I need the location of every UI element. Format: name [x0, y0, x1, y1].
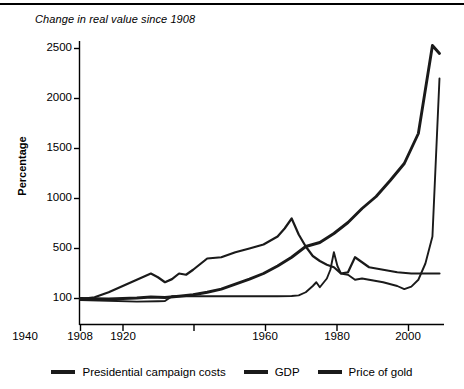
legend-item-gdp[interactable]: GDP — [244, 366, 300, 378]
legend-label: Presidential campaign costs — [82, 366, 225, 378]
plot-area — [0, 0, 464, 389]
legend-item-campaign-costs[interactable]: Presidential campaign costs — [51, 366, 225, 378]
legend-line-swatch-icon — [318, 370, 342, 374]
legend-label: GDP — [275, 366, 300, 378]
data-series-layer — [81, 46, 440, 302]
legend-item-price-of-gold[interactable]: Price of gold — [318, 366, 413, 378]
legend-line-swatch-icon — [51, 370, 75, 374]
legend-label: Price of gold — [349, 366, 413, 378]
legend-line-swatch-icon — [244, 370, 268, 374]
axes — [74, 41, 444, 331]
x-axis-ticks — [81, 325, 409, 331]
chart-legend: Presidential campaign costs GDP Price of… — [0, 362, 464, 382]
series-line — [81, 219, 440, 300]
series-line — [81, 79, 440, 302]
series-line — [81, 46, 440, 300]
y-axis-ticks — [74, 49, 80, 299]
chart-figure: Change in real value since 1908 Percenta… — [0, 0, 464, 389]
